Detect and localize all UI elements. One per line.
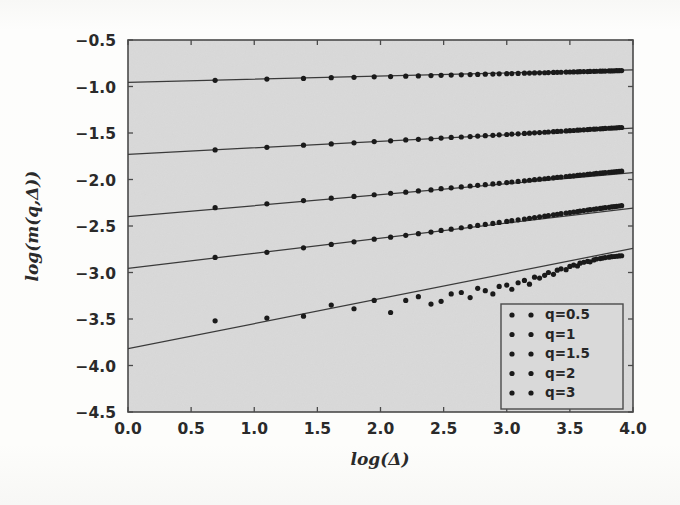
data-point (372, 74, 377, 79)
data-point (475, 133, 480, 138)
data-point (504, 282, 509, 287)
data-point (264, 201, 269, 206)
data-point (449, 72, 454, 77)
legend-marker (528, 332, 533, 337)
data-point (403, 74, 408, 79)
data-point (537, 130, 542, 135)
data-point (509, 132, 514, 137)
legend-marker (528, 312, 533, 317)
legend-label: q=2 (545, 365, 575, 381)
data-point (264, 76, 269, 81)
data-point (537, 70, 542, 75)
legend[interactable]: q=0.5q=1q=1.5q=2q=3 (501, 304, 623, 409)
data-point (619, 169, 624, 174)
legend-label: q=0.5 (545, 306, 590, 322)
data-point (403, 298, 408, 303)
data-point (619, 253, 624, 258)
data-point (483, 288, 488, 293)
legend-marker (528, 351, 533, 356)
data-point (329, 196, 334, 201)
data-point (497, 220, 502, 225)
data-point (532, 177, 537, 182)
data-point (301, 76, 306, 81)
data-point (388, 235, 393, 240)
y-tick-label: −2.0 (76, 172, 117, 190)
data-point (403, 137, 408, 142)
data-point (551, 272, 556, 277)
data-point (372, 139, 377, 144)
data-point (516, 131, 521, 136)
data-point (532, 275, 537, 280)
y-tick-label: −3.0 (76, 265, 117, 283)
data-point (459, 134, 464, 139)
data-point (537, 275, 542, 280)
data-point (468, 224, 473, 229)
data-point (388, 191, 393, 196)
data-point (351, 306, 356, 311)
data-point (329, 302, 334, 307)
data-point (329, 141, 334, 146)
data-point (619, 125, 624, 130)
data-point (558, 211, 563, 216)
legend-marker (509, 332, 514, 337)
data-point (416, 231, 421, 236)
data-point (439, 73, 444, 78)
data-point (483, 72, 488, 77)
data-point (527, 131, 532, 136)
data-point (516, 71, 521, 76)
data-point (264, 145, 269, 150)
y-axis-title: log(m(q,Δ)) (22, 171, 42, 282)
data-point (213, 205, 218, 210)
data-point (527, 282, 532, 287)
data-point (619, 203, 624, 208)
data-point (490, 133, 495, 138)
data-point (372, 237, 377, 242)
data-point (497, 284, 502, 289)
data-point (403, 190, 408, 195)
legend-marker (509, 351, 514, 356)
data-point (522, 131, 527, 136)
legend-marker (528, 390, 533, 395)
legend-marker (509, 312, 514, 317)
data-point (475, 223, 480, 228)
data-point (532, 215, 537, 220)
data-point (428, 73, 433, 78)
data-point (504, 71, 509, 76)
data-point (403, 233, 408, 238)
data-point (468, 72, 473, 77)
data-point (490, 181, 495, 186)
data-point (351, 140, 356, 145)
data-point (416, 294, 421, 299)
x-tick-label: 2.5 (430, 420, 457, 438)
y-tick-label: −2.5 (76, 218, 116, 236)
data-point (459, 184, 464, 189)
y-tick-label: −1.5 (76, 125, 116, 143)
data-point (329, 75, 334, 80)
data-point (329, 242, 334, 247)
x-tick-label: 3.5 (556, 420, 583, 438)
data-point (516, 179, 521, 184)
y-tick-label: −4.0 (76, 358, 117, 376)
data-point (468, 183, 473, 188)
data-point (388, 74, 393, 79)
data-point (213, 318, 218, 323)
data-point (527, 216, 532, 221)
x-tick-label: 4.0 (619, 420, 647, 438)
data-point (468, 134, 473, 139)
x-axis-title: log(Δ) (351, 449, 410, 469)
data-point (483, 182, 488, 187)
data-point (546, 129, 551, 134)
y-tick-label: −3.5 (76, 311, 116, 329)
data-point (509, 71, 514, 76)
figure-container: 0.00.51.01.52.02.53.03.54.0 −0.5−1.0−1.5… (0, 0, 680, 505)
data-point (301, 143, 306, 148)
data-point (490, 221, 495, 226)
data-point (351, 239, 356, 244)
chart-plot: 0.00.51.01.52.02.53.03.54.0 −0.5−1.0−1.5… (0, 0, 680, 505)
data-point (428, 302, 433, 307)
data-point (449, 135, 454, 140)
data-point (483, 222, 488, 227)
data-point (509, 218, 514, 223)
data-point (213, 78, 218, 83)
data-point (497, 181, 502, 186)
